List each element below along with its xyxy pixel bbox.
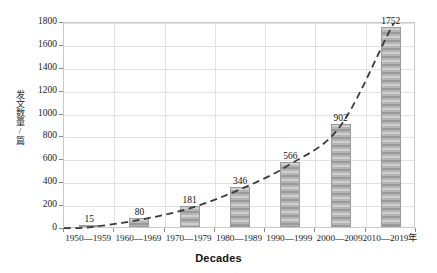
x-axis-tick-mark <box>214 228 215 232</box>
x-axis-tick-mark <box>63 228 64 232</box>
gridline-horizontal <box>64 92 414 93</box>
x-axis-title: Decades <box>0 252 437 264</box>
bar <box>230 187 250 227</box>
gridline-horizontal <box>64 23 414 24</box>
gridline-horizontal <box>64 137 414 138</box>
y-axis-tick-label: 1600 <box>15 40 57 50</box>
bar <box>129 218 149 227</box>
bar <box>280 162 300 227</box>
y-axis-tick-label: 200 <box>15 200 57 210</box>
bar-value-label: 15 <box>67 215 111 225</box>
y-axis-tick-label: 600 <box>15 154 57 164</box>
x-axis-tick-mark <box>314 228 315 232</box>
y-axis-tick-label: 1000 <box>15 109 57 119</box>
bar-value-label: 346 <box>218 177 262 187</box>
y-axis-tick-label: 400 <box>15 177 57 187</box>
gridline-vertical <box>165 23 166 227</box>
chart-figure: 发文数量/篇 020040060080010001200140016001800… <box>0 0 437 273</box>
x-axis-tick-mark <box>164 228 165 232</box>
x-axis-tick-label: 2010—2019年 <box>356 234 424 243</box>
y-axis-tick-label: 1400 <box>15 63 57 73</box>
y-axis-tick-label: 800 <box>15 131 57 141</box>
bar <box>331 124 351 227</box>
gridline-horizontal <box>64 160 414 161</box>
y-axis-tick-label: 0 <box>15 223 57 233</box>
bar-value-label: 566 <box>268 152 312 162</box>
gridline-vertical <box>366 23 367 227</box>
gridline-vertical <box>114 23 115 227</box>
bar <box>79 225 99 227</box>
gridline-horizontal <box>64 69 414 70</box>
gridline-vertical <box>315 23 316 227</box>
bar <box>180 206 200 227</box>
bar-value-label: 1752 <box>369 17 413 27</box>
bar-value-label: 902 <box>319 114 363 124</box>
x-axis-tick-mark <box>113 228 114 232</box>
x-axis-tick-mark <box>264 228 265 232</box>
gridline-horizontal <box>64 46 414 47</box>
bar <box>381 27 401 228</box>
plot-area: 15801813465669021752 <box>63 22 415 228</box>
bar-value-label: 181 <box>168 196 212 206</box>
bar-value-label: 80 <box>117 208 161 218</box>
y-axis-tick-label: 1800 <box>15 17 57 27</box>
y-axis-tick-label: 1200 <box>15 86 57 96</box>
gridline-vertical <box>215 23 216 227</box>
x-axis-tick-mark <box>365 228 366 232</box>
gridline-vertical <box>265 23 266 227</box>
x-axis-tick-mark <box>415 228 416 232</box>
